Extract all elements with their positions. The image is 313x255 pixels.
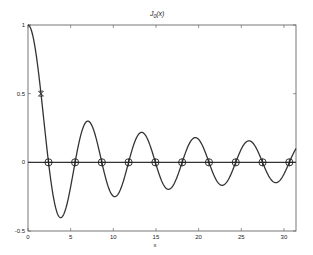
zero-marker xyxy=(152,159,159,166)
zero-marker xyxy=(71,159,78,166)
y-tick-label: 0 xyxy=(22,159,26,165)
zero-marker xyxy=(286,159,293,166)
zero-marker xyxy=(125,159,132,166)
plot-area xyxy=(28,25,296,218)
y-tick-label: -0.5 xyxy=(15,228,26,234)
zero-marker xyxy=(205,159,212,166)
x-tick-label: 25 xyxy=(238,234,245,240)
x-tick-label: 10 xyxy=(110,234,117,240)
axis-ticks: 051015202530-0.500.51 xyxy=(15,22,296,240)
bessel-curve xyxy=(28,25,296,218)
x-tick-label: 5 xyxy=(69,234,73,240)
zero-marker xyxy=(98,159,105,166)
zero-marker xyxy=(179,159,186,166)
y-tick-label: 0.5 xyxy=(17,91,26,97)
x-axis-label: x xyxy=(154,242,157,248)
zero-marker xyxy=(45,159,52,166)
x-tick-label: 30 xyxy=(281,234,288,240)
chart-title: J0(x) xyxy=(149,10,164,19)
zero-marker xyxy=(259,159,266,166)
y-tick-label: 1 xyxy=(22,22,26,28)
x-tick-label: 20 xyxy=(195,234,202,240)
bessel-chart: 051015202530-0.500.51 J0(x) x xyxy=(0,0,313,255)
x-tick-label: 0 xyxy=(26,234,30,240)
x-tick-label: 15 xyxy=(153,234,160,240)
zero-marker xyxy=(232,159,239,166)
